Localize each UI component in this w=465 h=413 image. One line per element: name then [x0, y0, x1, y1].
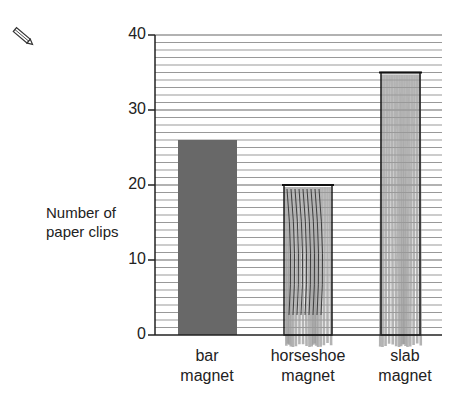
x-label-bar-magnet: bar magnet — [157, 346, 257, 386]
x-label-horseshoe-magnet: horseshoe magnet — [258, 346, 358, 386]
bars — [178, 73, 422, 347]
y-tick-0: 0 — [116, 325, 146, 343]
x-label-slab-magnet: slab magnet — [355, 346, 455, 386]
y-tick-20: 20 — [116, 175, 146, 193]
bar-slab-magnet — [379, 73, 422, 347]
y-tick-30: 30 — [116, 100, 146, 118]
y-tick-40: 40 — [116, 25, 146, 43]
bar-bar-magnet — [178, 140, 237, 335]
y-axis-label: Number of paper clips — [46, 203, 119, 241]
y-tick-10: 10 — [116, 250, 146, 268]
bar-horseshoe-magnet — [282, 185, 334, 347]
